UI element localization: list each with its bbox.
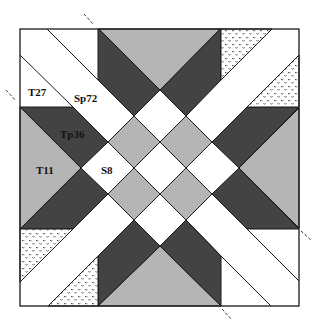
label-sp72: Sp72	[74, 92, 98, 104]
label-t11: T11	[36, 164, 54, 176]
label-tp36: Tp36	[60, 128, 85, 140]
cut-mark-bottom	[222, 309, 232, 320]
cut-mark-top	[84, 14, 94, 25]
label-s8: S8	[101, 164, 113, 176]
quilt-block-svg: T27 Sp72 Tp36 T11 S8	[0, 0, 320, 323]
cut-mark-left	[6, 90, 16, 101]
quilt-diagram: T27 Sp72 Tp36 T11 S8	[0, 0, 320, 323]
cut-mark-right	[301, 231, 312, 241]
label-t27: T27	[28, 86, 47, 98]
